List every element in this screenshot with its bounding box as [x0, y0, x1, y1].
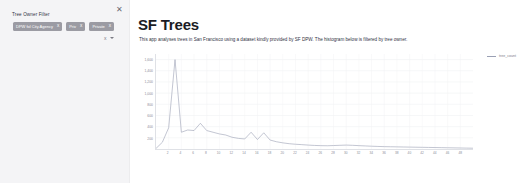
plot-canvas[interactable]	[155, 54, 473, 150]
clear-all-icon[interactable]: x	[104, 35, 107, 41]
selected-filter-chips: DPW fol City Agency x Priv x Private x	[13, 22, 117, 31]
y-axis-tick-label: 400	[147, 125, 153, 129]
plot-wrapper: 2004006008001,0001,2001,4001,600 2468101…	[136, 54, 476, 166]
x-axis-tick-label: 20	[280, 151, 284, 155]
x-axis-tick-label: 12	[230, 151, 234, 155]
x-axis-tick-label: 6	[192, 151, 194, 155]
filter-chip[interactable]: DPW fol City Agency x	[13, 22, 62, 31]
remove-chip-icon[interactable]: x	[79, 24, 82, 29]
x-axis-tick-label: 42	[420, 151, 424, 155]
x-axis-tick-label: 36	[382, 151, 386, 155]
y-axis-tick-label: 200	[147, 137, 153, 141]
x-axis-tick-label: 16	[255, 151, 259, 155]
remove-chip-icon[interactable]: x	[108, 24, 111, 29]
app-root: ✕ Tree Owner Filter DPW fol City Agency …	[0, 0, 521, 183]
y-axis-tick-label: 1,600	[145, 58, 154, 62]
filter-chip-label: Private	[92, 24, 104, 29]
filter-chip-label: DPW fol City Agency	[16, 24, 53, 29]
legend-label: tree_count	[499, 54, 516, 58]
page-title: SF Trees	[138, 16, 199, 33]
legend-swatch	[487, 56, 496, 57]
filter-chip[interactable]: Private x	[89, 22, 114, 31]
x-axis: 2468101214161820222426283032343638404244…	[155, 151, 473, 161]
sidebar: ✕ Tree Owner Filter DPW fol City Agency …	[0, 0, 130, 183]
line-series	[156, 60, 473, 149]
x-axis-tick-label: 44	[433, 151, 437, 155]
x-axis-tick-label: 30	[344, 151, 348, 155]
x-axis-tick-label: 48	[458, 151, 462, 155]
chevron-down-icon[interactable]	[110, 37, 114, 39]
x-axis-tick-label: 14	[242, 151, 246, 155]
x-axis-tick-label: 26	[319, 151, 323, 155]
x-axis-tick-label: 24	[306, 151, 310, 155]
x-axis-tick-label: 46	[446, 151, 450, 155]
y-axis-tick-label: 1,400	[145, 69, 154, 73]
x-axis-tick-label: 8	[205, 151, 207, 155]
x-axis-tick-label: 2	[167, 151, 169, 155]
y-axis: 2004006008001,0001,2001,4001,600	[136, 54, 155, 150]
x-axis-tick-label: 38	[395, 151, 399, 155]
filter-chip[interactable]: Priv x	[66, 22, 85, 31]
chart-legend: tree_count	[487, 54, 516, 58]
tree-owner-filter-label: Tree Owner Filter	[12, 12, 50, 17]
multiselect-controls: x	[104, 35, 114, 41]
y-axis-tick-label: 1,000	[145, 92, 154, 96]
x-axis-tick-label: 34	[369, 151, 373, 155]
x-axis-tick-label: 32	[357, 151, 361, 155]
filter-chip-label: Priv	[69, 24, 76, 29]
y-axis-tick-label: 800	[147, 103, 153, 107]
x-axis-tick-label: 28	[331, 151, 335, 155]
close-icon[interactable]: ✕	[115, 5, 124, 14]
y-axis-tick-label: 600	[147, 114, 153, 118]
line-series-svg	[156, 54, 473, 149]
page-description: This app analyses trees in San Francisco…	[139, 37, 517, 44]
x-axis-tick-label: 22	[293, 151, 297, 155]
tree-count-chart[interactable]: tree_count 2004006008001,0001,2001,4001,…	[136, 52, 518, 172]
remove-chip-icon[interactable]: x	[56, 24, 59, 29]
x-axis-tick-label: 40	[408, 151, 412, 155]
x-axis-tick-label: 4	[180, 151, 182, 155]
main-content: SF Trees This app analyses trees in San …	[130, 0, 521, 183]
x-axis-tick-label: 10	[217, 151, 221, 155]
y-axis-tick-label: 1,200	[145, 80, 154, 84]
x-axis-tick-label: 18	[268, 151, 272, 155]
